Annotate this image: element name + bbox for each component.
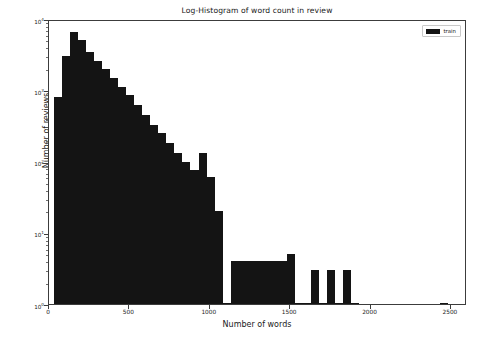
plot-area: train: [48, 20, 466, 305]
histogram-bar: [166, 143, 174, 304]
histogram-bar: [118, 87, 126, 304]
x-tick-label: 1000: [194, 309, 224, 315]
histogram-bar: [351, 303, 359, 305]
histogram-bar: [255, 261, 263, 304]
histogram-bar: [279, 261, 287, 304]
histogram-bar: [207, 177, 215, 304]
histogram-bar: [311, 270, 319, 304]
histogram-bar: [142, 115, 150, 304]
histogram-bar: [215, 211, 223, 304]
x-tick-label: 500: [113, 309, 143, 315]
x-axis-label: Number of words: [48, 320, 466, 329]
histogram-bar: [343, 270, 351, 304]
histogram-bar: [319, 303, 327, 305]
histogram-bar: [295, 303, 303, 305]
y-tick-label: 102: [18, 159, 44, 167]
histogram-bar: [78, 40, 86, 304]
x-tick-label: 1500: [274, 309, 304, 315]
x-tick-label: 0: [33, 309, 63, 315]
histogram-bar: [231, 261, 239, 304]
histogram-bar: [150, 125, 158, 304]
histogram-bar: [54, 97, 62, 304]
histogram-bar: [158, 133, 166, 304]
figure-canvas: Log-Histogram of word count in review Nu…: [0, 0, 481, 338]
histogram-bar: [182, 162, 190, 305]
histogram-bar: [287, 254, 295, 304]
chart-title: Log-Histogram of word count in review: [48, 6, 466, 15]
histogram-bar: [335, 303, 343, 305]
histogram-bars: [49, 21, 465, 304]
legend: train: [422, 25, 461, 37]
histogram-bar: [440, 303, 448, 305]
legend-label-train: train: [443, 28, 456, 34]
histogram-bar: [239, 261, 247, 304]
legend-swatch-train: [426, 29, 440, 34]
histogram-bar: [174, 153, 182, 304]
histogram-bar: [62, 56, 70, 304]
histogram-bar: [327, 270, 335, 304]
x-tick-label: 2000: [355, 309, 385, 315]
y-tick-label: 103: [18, 88, 44, 96]
histogram-bar: [86, 52, 94, 305]
histogram-bar: [303, 303, 311, 305]
y-tick-label: 101: [18, 230, 44, 238]
histogram-bar: [223, 303, 231, 305]
histogram-bar: [190, 170, 198, 304]
histogram-bar: [94, 61, 102, 304]
histogram-bar: [271, 261, 279, 304]
y-tick-label: 104: [18, 17, 44, 25]
histogram-bar: [199, 153, 207, 304]
histogram-bar: [134, 105, 142, 304]
histogram-bar: [126, 95, 134, 304]
histogram-bar: [70, 32, 78, 304]
histogram-bar: [247, 261, 255, 304]
histogram-bar: [110, 78, 118, 304]
x-tick-label: 2500: [435, 309, 465, 315]
histogram-bar: [102, 69, 110, 304]
histogram-bar: [263, 261, 271, 304]
